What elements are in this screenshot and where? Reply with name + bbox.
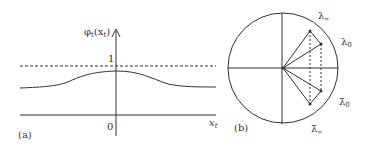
label-lambda-inf-bar: λ̄∞ bbox=[311, 123, 322, 135]
vector-lambda-inf bbox=[283, 31, 310, 68]
label-lambda-0-bar: λ̄0 bbox=[339, 96, 350, 109]
figure: φt(xt) 1 0 xt (a) λ∞ λ0 λ̄0 λ̄∞ (b) bbox=[0, 0, 366, 146]
panel-a: φt(xt) 1 0 xt (a) bbox=[18, 26, 218, 140]
origin-dot bbox=[281, 66, 284, 69]
point-lambda-0 bbox=[320, 43, 323, 46]
tick-label-one: 1 bbox=[108, 53, 114, 64]
arrow-upper bbox=[310, 31, 321, 44]
vector-lambda-inf-bar bbox=[283, 68, 310, 104]
panel-b-label: (b) bbox=[234, 122, 248, 133]
label-lambda-inf: λ∞ bbox=[318, 10, 329, 22]
origin-label: 0 bbox=[107, 121, 113, 132]
panel-b: λ∞ λ0 λ̄0 λ̄∞ (b) bbox=[228, 10, 352, 135]
panel-a-label: (a) bbox=[18, 129, 32, 140]
point-lambda-0-bar bbox=[320, 90, 323, 93]
point-lambda-inf-bar bbox=[309, 103, 312, 106]
phi-curve bbox=[20, 71, 216, 88]
point-lambda-inf bbox=[309, 30, 312, 33]
label-lambda-0: λ0 bbox=[341, 36, 352, 49]
y-axis-label: φt(xt) bbox=[84, 26, 110, 39]
vector-lambda-0-bar bbox=[283, 68, 321, 91]
vector-lambda-0 bbox=[283, 44, 321, 68]
x-axis-label: xt bbox=[209, 117, 218, 130]
arrow-lower bbox=[310, 91, 321, 104]
